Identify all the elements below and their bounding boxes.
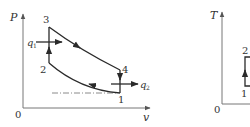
arrow-3-4: [74, 44, 80, 48]
ts-origin-label: 0: [214, 104, 220, 115]
heat-out-sub: 2: [146, 84, 150, 91]
point-1-label: 1: [118, 94, 124, 105]
p-axis-label: P: [9, 11, 18, 24]
point-4-label: 4: [122, 64, 128, 75]
origin-label: 0: [15, 109, 21, 120]
v-axis-label: v: [143, 111, 150, 124]
point-2-label: 2: [40, 64, 46, 75]
point-3-label: 3: [43, 14, 49, 25]
process-3-4: [49, 27, 120, 70]
thermo-cycle-diagrams: P v 0 q 1 q 2 3 2 4 1 T 0: [0, 0, 250, 127]
process-1-2: [49, 63, 120, 93]
ts-point-1-label: 1: [241, 88, 247, 99]
pv-diagram: P v 0 q 1 q 2 3 2 4 1: [9, 11, 150, 124]
ts-point-2-label: 2: [242, 45, 248, 56]
heat-in-sub: 1: [33, 42, 37, 49]
t-axis-label: T: [210, 9, 219, 22]
arrow-1-2: [89, 84, 96, 86]
ts-diagram: T 0 2 1: [210, 9, 250, 115]
ts-process-1-2: [245, 57, 250, 86]
